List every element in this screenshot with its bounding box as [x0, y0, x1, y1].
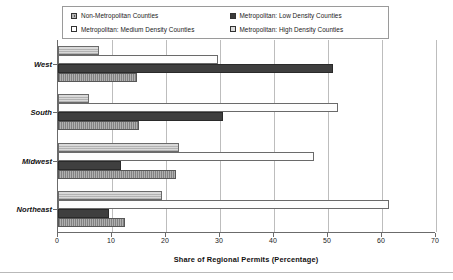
x-tick-label: 30 [215, 237, 223, 244]
x-tick-label: 70 [431, 237, 439, 244]
legend-swatch-icon [71, 13, 77, 19]
bar-row [58, 209, 435, 218]
legend-swatch-icon [230, 26, 236, 32]
bar-row [58, 73, 435, 82]
bar-groups [58, 40, 435, 232]
bar-group [58, 40, 435, 88]
legend-label: Metropolitan: Low Density Counties [240, 12, 342, 19]
legend-entry[interactable]: Metropolitan: High Density Counties [230, 26, 389, 33]
bar-row [58, 64, 435, 73]
gridline [436, 40, 437, 232]
bar-row [58, 200, 435, 209]
x-tick-label: 60 [377, 237, 385, 244]
legend-label: Metropolitan: Medium Density Counties [81, 26, 194, 33]
bar[interactable] [58, 143, 179, 152]
x-tick-label: 10 [107, 237, 115, 244]
y-axis-label-south: South [30, 108, 52, 117]
bar-row [58, 112, 435, 121]
legend-swatch-icon [71, 26, 77, 32]
bar-group [58, 185, 435, 233]
legend-entry[interactable]: Non-Metropolitan Counties [71, 12, 230, 19]
x-axis-ticks: 010203040506070 [57, 233, 435, 245]
x-tick-label: 20 [161, 237, 169, 244]
bar[interactable] [58, 200, 389, 209]
bar[interactable] [58, 218, 125, 227]
bar-row [58, 218, 435, 227]
legend-label: Non-Metropolitan Counties [81, 12, 158, 19]
bar[interactable] [58, 64, 333, 73]
bar-row [58, 161, 435, 170]
bar[interactable] [58, 112, 223, 121]
bar-row [58, 46, 435, 55]
bar-row [58, 143, 435, 152]
bar-row [58, 103, 435, 112]
bar[interactable] [58, 94, 89, 103]
bar[interactable] [58, 161, 121, 170]
bar[interactable] [58, 209, 109, 218]
bar[interactable] [58, 73, 137, 82]
footer-divider [0, 272, 453, 273]
x-tick-label: 0 [55, 237, 59, 244]
y-axis-category-labels: WestSouthMidwestNortheast [0, 40, 57, 233]
y-axis-label-northeast: Northeast [17, 204, 52, 213]
bar[interactable] [58, 170, 176, 179]
bar-row [58, 152, 435, 161]
legend-swatch-icon [230, 13, 236, 19]
legend-entry[interactable]: Metropolitan: Medium Density Counties [71, 26, 230, 33]
bar[interactable] [58, 46, 99, 55]
plot-area [57, 40, 435, 233]
legend-label: Metropolitan: High Density Counties [240, 26, 344, 33]
x-tick-label: 40 [269, 237, 277, 244]
bar[interactable] [58, 191, 162, 200]
legend-entry[interactable]: Metropolitan: Low Density Counties [230, 12, 389, 19]
bar-chart-figure: Non-Metropolitan CountiesMetropolitan: L… [0, 0, 453, 280]
bar-row [58, 121, 435, 130]
bar[interactable] [58, 55, 218, 64]
chart-legend: Non-Metropolitan CountiesMetropolitan: L… [62, 6, 389, 39]
y-axis-label-west: West [34, 60, 52, 69]
bar-row [58, 55, 435, 64]
x-axis-title: Share of Regional Permits (Percentage) [57, 255, 435, 264]
bar[interactable] [58, 152, 314, 161]
bar-group [58, 88, 435, 136]
x-tick-label: 50 [323, 237, 331, 244]
bar-group [58, 137, 435, 185]
bar-row [58, 94, 435, 103]
bar[interactable] [58, 103, 338, 112]
bar-row [58, 170, 435, 179]
bar-row [58, 191, 435, 200]
bar[interactable] [58, 121, 139, 130]
y-axis-label-midwest: Midwest [22, 156, 52, 165]
